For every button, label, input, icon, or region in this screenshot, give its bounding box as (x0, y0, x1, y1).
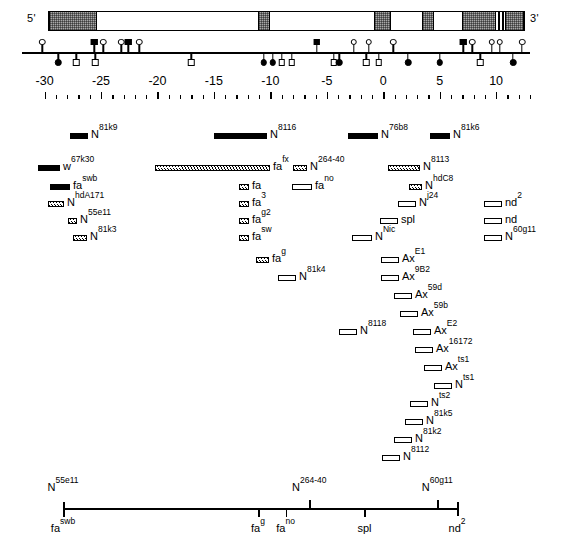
axis-minor-tick (191, 95, 192, 99)
allele-deficiency-bar-open (382, 455, 400, 461)
allele-deficiency-bar-open (434, 383, 452, 389)
allele-entry-n-ts2: Nts2 (410, 396, 450, 407)
axis-major-tick (440, 92, 441, 99)
allele-gene-name: Ax (436, 342, 449, 354)
allele-entry-n-j24: Nj24 (398, 196, 438, 207)
genetic-map-figure: 5' 3' -30-25-20-15-10-50510 N81k9N8116N7… (0, 0, 561, 548)
marker-stem (127, 44, 128, 53)
axis-minor-tick (316, 95, 317, 99)
allele-superscript: E1 (415, 246, 425, 256)
marker-stem (353, 44, 354, 53)
map-label-gene: N (48, 481, 56, 493)
allele-deficiency-bar-open (278, 275, 296, 281)
axis-major-tick (101, 92, 102, 99)
marker-circle-open-up-15 (516, 36, 528, 53)
map-label-spl: spl (357, 522, 371, 534)
map-label-superscript: g (260, 516, 265, 526)
marker-head-circle-open-icon (136, 39, 143, 46)
map-label-n-55e11: N55e11 (48, 481, 79, 493)
allele-deficiency-bar-open (484, 201, 502, 207)
axis-major-tick (496, 92, 497, 99)
allele-gene-name: N (310, 160, 318, 172)
map-tick-n264-40 (309, 500, 311, 508)
allele-deficiency-bar-open (410, 401, 428, 407)
allele-label: NNic (375, 231, 395, 242)
allele-deficiency-bar-open (381, 257, 399, 263)
marker-square-open-down-4 (185, 53, 197, 70)
map-label-gene: fa (51, 522, 60, 534)
allele-gene-name: N (505, 230, 513, 242)
allele-deficiency-bar-hatch (409, 184, 422, 190)
marker-circle-open-up-14 (494, 36, 506, 53)
marker-head-square-open-icon (92, 59, 99, 66)
marker-stem (103, 44, 104, 53)
allele-deficiency-bar-hatch (239, 235, 249, 241)
allele-superscript: sw (261, 224, 271, 234)
axis-minor-tick (90, 95, 91, 99)
allele-superscript: swb (82, 173, 97, 183)
marker-stem (499, 44, 500, 53)
allele-entry-fa-fx: fafx (155, 160, 289, 171)
allele-gene-name: fa (252, 213, 261, 225)
axis-minor-tick (67, 95, 68, 99)
marker-head-circle-open-icon (351, 39, 358, 46)
map-label-gene: fa (251, 522, 260, 534)
marker-stem (368, 44, 369, 53)
allele-superscript: hdA171 (75, 190, 104, 200)
allele-gene-name: fa (252, 230, 261, 242)
marker-head-square-fill-icon (125, 39, 132, 46)
allele-gene-name: Ax (402, 270, 415, 282)
allele-deficiency-bar-solid (70, 133, 88, 139)
marker-circle-open-up-1 (36, 36, 48, 53)
allele-deficiency-bar-open (398, 201, 416, 207)
marker-head-square-open-icon (375, 59, 382, 66)
map-label-fa-swb: faswb (51, 522, 75, 534)
allele-deficiency-bar-open (405, 419, 423, 425)
axis-tick-label--30: -30 (36, 74, 54, 88)
allele-deficiency-bar-open (394, 437, 412, 443)
allele-gene-name: N (360, 324, 368, 336)
allele-gene-name: N (431, 396, 439, 408)
axis-minor-tick (248, 95, 249, 99)
allele-superscript: 8116 (278, 122, 296, 132)
axis-minor-tick (451, 95, 452, 99)
allele-entry-ax-16172: Ax16172 (415, 342, 472, 353)
axis-minor-tick (395, 95, 396, 99)
axis-minor-tick (474, 95, 475, 99)
allele-superscript: 59d (428, 282, 442, 292)
axis-ruler (0, 92, 561, 102)
allele-entry-w-67k30: w67k30 (38, 160, 94, 171)
axis-minor-tick (135, 95, 136, 99)
allele-label: spl (401, 214, 415, 225)
map-label-superscript: swb (60, 516, 75, 526)
allele-entry-n-55e11: N55e11 (68, 213, 111, 224)
genetic-map-line (63, 508, 457, 510)
axis-minor-tick (372, 95, 373, 99)
allele-superscript: 8118 (368, 318, 386, 328)
allele-superscript: 16172 (449, 336, 473, 346)
allele-superscript: 3 (261, 190, 266, 200)
marker-head-circle-open-icon (100, 39, 107, 46)
allele-label: N60g11 (505, 231, 536, 242)
axis-minor-tick (361, 95, 362, 99)
allele-entry-n-81k6: N81k6 (430, 128, 479, 139)
allele-entry-n-81k5: N81k5 (405, 414, 452, 425)
three-prime-label: 3' (530, 12, 539, 24)
allele-label: Nts1 (455, 379, 474, 390)
axis-minor-tick (530, 95, 531, 99)
marker-square-open-down-15 (474, 53, 486, 70)
allele-superscript: no (324, 173, 333, 183)
allele-deficiency-bar-open (415, 347, 433, 353)
marker-square-open-down-3 (89, 53, 101, 70)
marker-head-square-open-icon (289, 59, 296, 66)
marker-head-circle-fill-icon (510, 59, 517, 66)
axis-minor-tick (56, 95, 57, 99)
allele-gene-name: N (423, 160, 431, 172)
allele-gene-name: Ax (445, 360, 458, 372)
allele-superscript: Nic (383, 224, 395, 234)
allele-label: N8118 (360, 325, 386, 336)
allele-entry-n-8113: N8113 (388, 160, 449, 171)
allele-label: w67k30 (63, 161, 94, 172)
allele-label: N81k6 (453, 129, 479, 140)
axis-minor-tick (293, 95, 294, 99)
